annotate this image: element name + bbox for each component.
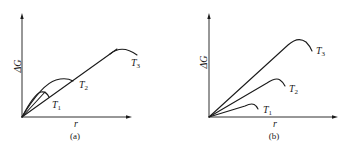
curve-label-t3: T3 <box>316 45 326 58</box>
panel-caption: (a) <box>70 131 80 141</box>
x-axis-arrow-icon <box>126 115 132 118</box>
curve-t2 <box>209 79 285 117</box>
x-axis-arrow-icon <box>332 115 338 118</box>
curve-label-t2: T2 <box>79 79 89 92</box>
y-axis-label: ΔG <box>12 59 23 73</box>
curve-label-t3: T3 <box>131 57 141 70</box>
panel-b: ΔG r (b) T1 T2 T3 <box>198 13 338 141</box>
curve-t1-chord <box>22 92 45 117</box>
curve-t3 <box>209 40 312 117</box>
gibbs-free-energy-figure: ΔG r (a) T1 T2 T3 ΔG r (b) T1 T2 T3 <box>0 0 347 150</box>
curve-label-t1: T1 <box>52 99 62 112</box>
y-axis-label: ΔG <box>198 55 209 69</box>
panel-caption: (b) <box>269 131 280 141</box>
curve-t3-peak <box>110 49 137 55</box>
curve-t3-line <box>22 49 117 117</box>
curve-label-t1: T1 <box>263 104 273 117</box>
y-axis-arrow-icon <box>20 13 23 19</box>
curve-label-t2: T2 <box>289 83 299 96</box>
y-axis-arrow-icon <box>207 13 210 19</box>
x-axis-label: r <box>74 118 78 129</box>
x-axis-label: r <box>273 118 277 129</box>
panel-a: ΔG r (a) T1 T2 T3 <box>12 13 141 141</box>
